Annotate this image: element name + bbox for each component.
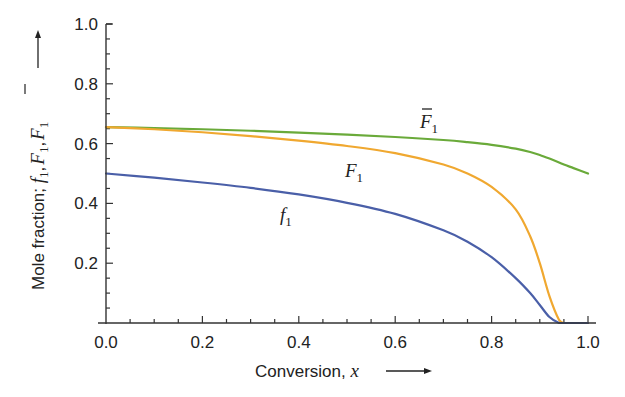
chart-canvas: 0.00.20.40.60.81.0 0.20.40.60.81.0 F1 F1… — [0, 0, 625, 397]
x-tick-label: 0.4 — [287, 333, 311, 352]
y-axis-ticks: 0.20.40.60.81.0 — [74, 15, 113, 308]
label-fbar1: F1 — [419, 109, 438, 136]
curves — [106, 127, 588, 323]
label-F1: F1 — [344, 160, 363, 185]
y-tick-label: 0.2 — [74, 254, 98, 273]
svg-text:Mole fraction; f1,F1,F1: Mole fraction; f1,F1,F1 — [27, 122, 51, 290]
x-tick-label: 0.2 — [191, 333, 215, 352]
y-tick-label: 0.6 — [74, 135, 98, 154]
x-tick-label: 0.0 — [94, 333, 118, 352]
x-tick-label: 0.8 — [480, 333, 504, 352]
x-tick-label: 0.6 — [383, 333, 407, 352]
svg-text:F1: F1 — [344, 160, 363, 185]
series-line-f1 — [106, 174, 588, 324]
svg-text:Conversion, x: Conversion, x — [255, 360, 359, 381]
svg-text:f1: f1 — [280, 204, 292, 229]
y-tick-label: 0.4 — [74, 194, 98, 213]
label-f1: f1 — [280, 204, 292, 229]
series-line-F1 — [106, 127, 588, 323]
x-tick-label: 1.0 — [576, 333, 600, 352]
svg-text:F1: F1 — [419, 111, 438, 136]
y-arrow-head-icon — [35, 30, 41, 38]
y-axis-title: Mole fraction; f1,F1,F1 — [25, 30, 51, 290]
x-axis-title: Conversion, x — [255, 360, 432, 381]
x-axis-ticks: 0.00.20.40.60.81.0 — [94, 316, 600, 352]
y-tick-label: 0.8 — [74, 75, 98, 94]
y-tick-label: 1.0 — [74, 15, 98, 34]
x-arrow-head-icon — [424, 368, 432, 374]
